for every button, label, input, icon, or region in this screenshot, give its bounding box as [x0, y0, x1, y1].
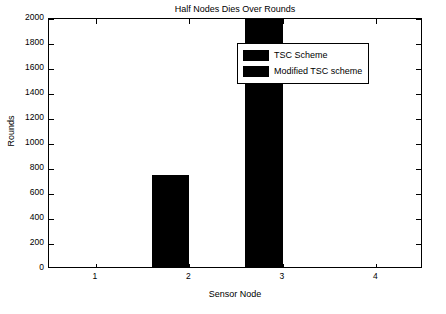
legend-label-modified-tsc-scheme: Modified TSC scheme	[274, 66, 362, 76]
y-tick-mark	[49, 69, 54, 70]
chart-title: Half Nodes Dies Over Rounds	[48, 3, 422, 15]
y-tick-mark	[416, 219, 421, 220]
x-axis-tick-labels: 1234	[48, 271, 422, 285]
y-tick-mark	[49, 219, 54, 220]
legend-label-tsc-scheme: TSC Scheme	[274, 50, 328, 60]
y-tick-label: 800	[4, 163, 44, 172]
x-tick-mark	[376, 264, 377, 268]
y-tick-label: 600	[4, 188, 44, 197]
y-tick-mark	[416, 144, 421, 145]
y-tick-label: 200	[4, 238, 44, 247]
y-tick-mark	[416, 169, 421, 170]
y-tick-label: 1600	[4, 63, 44, 72]
y-tick-mark	[49, 144, 54, 145]
y-tick-mark	[416, 44, 421, 45]
x-axis-label: Sensor Node	[48, 289, 422, 299]
y-tick-label: 1200	[4, 113, 44, 122]
bar	[152, 175, 189, 268]
y-tick-mark	[49, 94, 54, 95]
y-tick-mark	[416, 244, 421, 245]
y-tick-mark	[416, 194, 421, 195]
y-tick-mark	[49, 119, 54, 120]
plot-area: TSC Scheme Modified TSC scheme	[48, 18, 422, 268]
y-tick-label: 1800	[4, 38, 44, 47]
y-tick-mark	[49, 194, 54, 195]
x-tick-label: 2	[173, 271, 203, 281]
y-tick-label: 400	[4, 213, 44, 222]
scan-artifact	[0, 304, 446, 314]
x-tick-label: 4	[360, 271, 390, 281]
y-tick-mark	[416, 19, 421, 20]
y-tick-label: 1000	[4, 138, 44, 147]
y-tick-label: 1400	[4, 88, 44, 97]
legend: TSC Scheme Modified TSC scheme	[237, 43, 369, 84]
y-axis-tick-labels: 0200400600800100012001400160018002000	[0, 18, 44, 268]
figure: Half Nodes Dies Over Rounds Rounds Senso…	[0, 0, 446, 314]
x-tick-mark	[96, 19, 97, 24]
y-tick-mark	[416, 69, 421, 70]
y-tick-label: 2000	[4, 13, 44, 22]
y-tick-mark	[49, 44, 54, 45]
y-tick-label: 0	[4, 263, 44, 272]
x-tick-mark	[283, 264, 284, 268]
y-tick-mark	[416, 94, 421, 95]
x-tick-mark	[96, 264, 97, 268]
y-tick-mark	[49, 244, 54, 245]
x-tick-mark	[283, 19, 284, 24]
x-tick-mark	[189, 19, 190, 24]
y-tick-mark	[49, 169, 54, 170]
x-tick-mark	[376, 19, 377, 24]
x-tick-label: 1	[80, 271, 110, 281]
legend-swatch-modified-tsc-scheme	[243, 66, 269, 77]
y-tick-mark	[416, 119, 421, 120]
legend-swatch-tsc-scheme	[243, 50, 269, 61]
x-tick-label: 3	[267, 271, 297, 281]
legend-item: TSC Scheme	[243, 47, 362, 63]
y-tick-mark	[49, 19, 54, 20]
x-tick-mark	[189, 264, 190, 268]
legend-item: Modified TSC scheme	[243, 63, 362, 79]
